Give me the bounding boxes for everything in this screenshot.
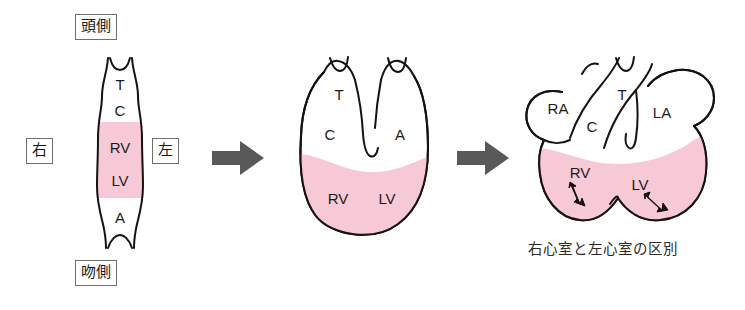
truncus-notch (110, 58, 130, 70)
chamber-label-ra: RA (548, 100, 569, 117)
segment-label-t: T (115, 76, 124, 93)
segment-label-lv: LV (378, 190, 395, 207)
right-arrow-icon (457, 141, 509, 175)
segment-label-c: C (115, 102, 126, 119)
segment-label-rv: RV (328, 190, 349, 207)
heart-development-figure: 頭側 吻側 右 左 T C RV LV A (0, 0, 745, 310)
orientation-label-right: 右 (26, 138, 53, 164)
orientation-label-cranial: 頭側 (75, 14, 117, 40)
chamber-label-lv: LV (631, 176, 648, 193)
segment-label-c: C (325, 126, 336, 143)
chamber-label-t: T (617, 86, 626, 103)
segment-label-a: A (115, 209, 125, 226)
transition-arrow-2 (457, 141, 509, 175)
atrial-inflow-notch (108, 235, 132, 248)
stage-chambered-heart: RA T C LA RV LV (518, 52, 728, 232)
right-arrow-icon (212, 141, 264, 175)
segment-label-t: T (334, 86, 343, 103)
segment-label-rv: RV (110, 139, 131, 156)
stage-looped-heart-tube: T C A RV LV (288, 52, 448, 242)
chamber-label-c: C (587, 118, 598, 135)
stage-straight-heart-tube: T C RV LV A (78, 52, 162, 252)
chamber-label-la: LA (653, 104, 671, 121)
segment-label-lv: LV (111, 172, 128, 189)
orientation-label-rostral: 吻側 (75, 260, 117, 286)
figure-caption: 右心室と左心室の区別 (528, 237, 678, 258)
transition-arrow-1 (212, 141, 264, 175)
ra-arch-detail (582, 63, 598, 74)
chamber-label-rv: RV (570, 164, 591, 181)
segment-label-a: A (395, 126, 405, 143)
